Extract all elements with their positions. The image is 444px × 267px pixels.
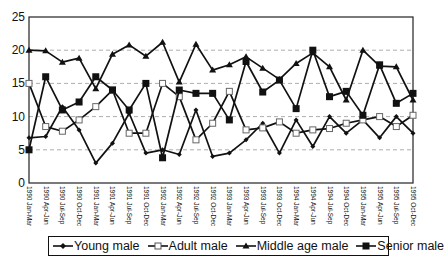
y-tick-label: 15: [12, 76, 26, 90]
data-point: [177, 152, 182, 157]
data-point: [343, 88, 350, 95]
gridlines: [29, 50, 413, 150]
data-point: [393, 100, 400, 107]
data-point: [26, 146, 33, 153]
y-tick-label: 25: [12, 10, 26, 24]
x-tick-label: 1993 Apr-Jun: [242, 186, 250, 225]
y-tick-label: 20: [12, 43, 26, 57]
x-tick-label: 1993 Jul-Sep: [259, 186, 267, 225]
data-point: [126, 41, 133, 47]
legend-label: Senior male: [377, 239, 444, 253]
x-tick-label: 1992 Apr-Jun: [175, 186, 183, 225]
data-point: [326, 93, 333, 100]
data-point: [276, 119, 282, 125]
data-point: [126, 106, 133, 113]
x-tick-label: 1993 Jan-Mar: [226, 186, 233, 227]
data-point: [160, 80, 166, 86]
data-point: [293, 130, 299, 136]
open-square-marker-icon: [148, 241, 168, 251]
data-point: [42, 73, 49, 80]
x-tick-label: 1995 Jul-Sep: [392, 186, 400, 225]
data-point: [210, 154, 215, 159]
x-tick-label: 1991 Oct-Dec: [143, 186, 150, 227]
data-point: [193, 107, 198, 112]
y-tick-label: 5: [18, 143, 25, 157]
data-point: [343, 120, 349, 126]
series-young-male: [27, 104, 416, 165]
legend-item-young-male: Young male: [53, 239, 140, 253]
data-point: [126, 130, 132, 136]
data-point: [26, 80, 32, 86]
data-point: [59, 106, 66, 113]
series-adult-male: [26, 80, 416, 142]
data-point: [159, 39, 166, 45]
y-axis: 0510152025: [12, 10, 26, 190]
data-point: [76, 55, 83, 61]
data-point: [192, 90, 199, 97]
x-tick-label: 1990 Apr-Jun: [42, 186, 50, 225]
x-tick-label: 1991 Jan-Mar: [93, 186, 100, 227]
diamond-marker-icon: [53, 241, 73, 251]
plot-frame: [29, 17, 413, 183]
data-point: [176, 79, 183, 85]
data-point: [359, 47, 366, 53]
data-point: [176, 87, 183, 94]
data-point: [43, 124, 49, 130]
data-point: [293, 60, 300, 66]
x-tick-label: 1993 Oct-Dec: [276, 186, 283, 227]
legend-label: Middle age male: [257, 239, 349, 253]
y-tick-label: 0: [18, 176, 25, 190]
data-point: [259, 89, 266, 96]
data-point: [226, 116, 233, 123]
x-tick-label: 1991 Apr-Jun: [108, 186, 116, 225]
x-tick-label: 1994 Jan-Mar: [293, 186, 300, 227]
data-point: [109, 87, 116, 94]
data-point: [159, 154, 166, 161]
x-tick-label: 1994 Oct-Dec: [343, 186, 350, 227]
x-tick-label: 1994 Apr-Jun: [309, 186, 317, 225]
x-tick-label: 1995 Apr-Jun: [376, 186, 384, 225]
legend: Young male Adult male Middle age male Se…: [48, 236, 389, 256]
data-point: [210, 120, 216, 126]
y-tick-label: 10: [12, 110, 26, 124]
data-point: [377, 114, 383, 120]
data-point: [243, 58, 250, 65]
x-tick-label: 1990 Oct-Dec: [76, 186, 83, 227]
data-point: [376, 61, 383, 68]
data-point: [393, 124, 399, 130]
x-tick-label: 1990 Jan-Mar: [26, 186, 33, 227]
data-point: [327, 126, 333, 132]
data-point: [243, 127, 249, 133]
filled-square-marker-icon: [356, 241, 376, 251]
data-point: [93, 104, 99, 110]
triangle-marker-icon: [236, 241, 256, 251]
data-point: [143, 130, 149, 136]
x-tick-label: 1990 Jul-Sep: [58, 186, 66, 225]
data-point: [76, 98, 83, 105]
data-point: [193, 137, 199, 143]
x-tick-label: 1994 Jul-Sep: [326, 186, 334, 225]
legend-label: Young male: [74, 239, 140, 253]
data-point: [276, 77, 283, 84]
legend-item-senior-male: Senior male: [356, 239, 444, 253]
data-point: [76, 117, 82, 123]
data-point: [92, 73, 99, 80]
x-axis: 1990 Jan-Mar1990 Apr-Jun1990 Jul-Sep1990…: [26, 186, 417, 227]
data-point: [142, 80, 149, 87]
data-point: [226, 88, 232, 94]
x-tick-label: 1992 Oct-Dec: [210, 186, 217, 227]
x-tick-label: 1991 Jul-Sep: [125, 186, 133, 225]
data-point: [410, 112, 416, 118]
data-point: [59, 128, 65, 134]
x-tick-label: 1992 Jul-Sep: [192, 186, 200, 225]
legend-item-middle-age-male: Middle age male: [236, 239, 349, 253]
data-point: [343, 97, 350, 103]
data-point: [209, 90, 216, 97]
legend-item-adult-male: Adult male: [148, 239, 228, 253]
data-point: [359, 112, 366, 119]
data-point: [192, 41, 199, 47]
data-point: [293, 105, 300, 112]
data-point: [410, 97, 417, 103]
data-point: [92, 85, 99, 91]
